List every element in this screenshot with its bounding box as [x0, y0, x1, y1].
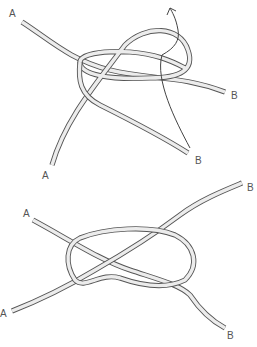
rope-strand-a-to-b: [33, 220, 225, 328]
label-end-b: B: [227, 331, 234, 341]
knot-step-2: A B A B: [0, 170, 257, 347]
label-end-b: B: [231, 91, 238, 101]
label-end-b: B: [247, 183, 254, 193]
label-end-b: B: [195, 156, 202, 166]
rope-strand-a-lower-to-b-upper: [12, 183, 242, 311]
knot-step-2-drawing: [0, 170, 257, 347]
label-end-a: A: [23, 209, 30, 219]
knot-step-1: A B B A: [0, 0, 257, 180]
knot-step-1-drawing: [0, 0, 257, 180]
rope-strand-upper: [22, 22, 225, 92]
label-end-a: A: [0, 309, 7, 319]
label-end-a: A: [9, 9, 16, 19]
